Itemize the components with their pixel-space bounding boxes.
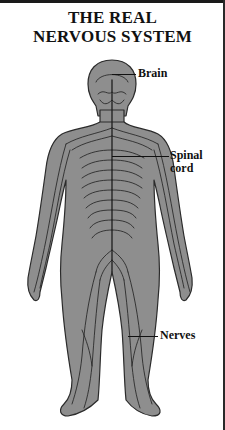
nerves-label: Nerves	[160, 329, 195, 342]
brain-leader-line	[112, 74, 136, 75]
spinal-cord-leader-line	[112, 156, 169, 157]
body-silhouette	[28, 60, 192, 416]
brain-label: Brain	[138, 67, 167, 80]
nerves-leader-line	[128, 336, 158, 337]
spinal-cord-label: Spinal cord	[170, 149, 203, 175]
human-body-figure	[0, 0, 225, 430]
spinal-cord-label-line-2: cord	[170, 162, 203, 175]
nerve-network	[34, 75, 190, 409]
